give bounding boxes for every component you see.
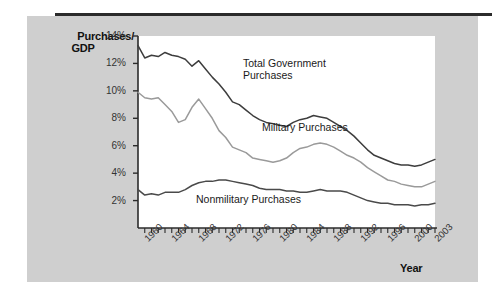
series-label-total-government: Total GovernmentPurchases: [243, 58, 326, 81]
chart-plot-svg: [0, 0, 492, 294]
series-label-line: Purchases: [243, 70, 326, 82]
y-tick-label: 14%: [80, 30, 126, 41]
y-tick-label: 4%: [80, 167, 126, 178]
series-line: [138, 92, 435, 187]
chart-figure: Purchases/GDP Year 14%12%10%8%6%4%2% 196…: [0, 0, 492, 294]
y-tick-label: 2%: [80, 195, 126, 206]
y-tick-label: 10%: [80, 85, 126, 96]
y-axis: [133, 36, 138, 228]
series-label-line: Total Government: [243, 58, 326, 70]
y-tick-label: 6%: [80, 140, 126, 151]
y-tick-label: 8%: [80, 112, 126, 123]
y-tick-label: 12%: [80, 57, 126, 68]
series-label-military: Military Purchases: [262, 122, 348, 134]
series-label-nonmilitary: Nonmilitary Purchases: [196, 194, 301, 206]
